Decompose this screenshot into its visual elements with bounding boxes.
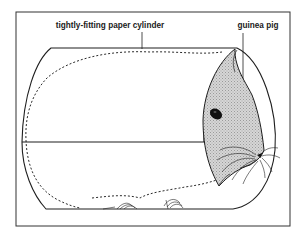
guinea-pig-body-outline [26,52,222,208]
diagram: tightly-fitting paper cylinder guinea pi… [0,0,299,234]
cylinder-seam-line [22,128,204,142]
guinea-pig-label: guinea pig [238,21,279,30]
cylinder-label: tightly-fitting paper cylinder [56,21,165,30]
guinea-pig-belly-outline [92,178,222,198]
eye-highlight [214,111,217,113]
hind-feet [103,199,183,209]
guinea-pig-head [203,49,264,186]
